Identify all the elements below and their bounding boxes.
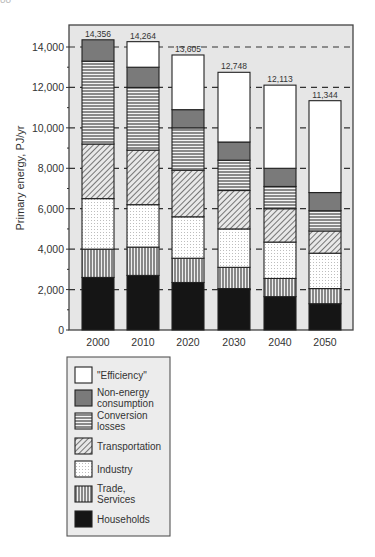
bar-2020: 13,6052020 — [172, 44, 204, 348]
legend-label: Non-energy — [97, 387, 149, 398]
bar-segment — [172, 258, 204, 282]
legend-label: losses — [97, 421, 125, 432]
bar-segment — [82, 199, 114, 250]
bar-segment — [82, 277, 114, 330]
bar-segment — [309, 101, 341, 193]
bar-segment — [127, 150, 159, 205]
legend: "Efficiency"Non-energyconsumptionConvers… — [67, 357, 170, 536]
caption-fragment — [0, 548, 375, 557]
legend-swatch — [75, 390, 92, 406]
y-tick-label: 6,000 — [38, 203, 64, 215]
bar-segment — [218, 229, 250, 267]
bar-segment — [82, 144, 114, 199]
bar-segment — [264, 168, 296, 186]
legend-label: Households — [97, 514, 150, 525]
y-tick-label: 8,000 — [38, 162, 64, 174]
x-tick-label: 2040 — [268, 336, 292, 348]
bar-segment — [172, 282, 204, 330]
bar-segment — [82, 61, 114, 144]
bar-total-label: 13,605 — [175, 44, 201, 54]
legend-label: Transportation — [97, 441, 161, 452]
y-tick-label: 2,000 — [38, 284, 64, 296]
bar-total-label: 12,113 — [267, 74, 293, 84]
legend-swatch — [75, 438, 92, 454]
bar-segment — [309, 211, 341, 231]
legend-swatch — [75, 413, 92, 429]
bar-total-label: 14,356 — [85, 29, 111, 39]
legend-label: Services — [97, 494, 135, 505]
bar-segment — [172, 170, 204, 216]
bar-segment — [127, 247, 159, 275]
bar-segment — [309, 304, 341, 330]
bar-2040: 12,1132040 — [264, 74, 296, 348]
bar-2000: 14,3562000 — [82, 29, 114, 348]
bar-total-label: 12,748 — [221, 61, 247, 71]
legend-label: Conversion — [97, 410, 148, 421]
bar-segment — [127, 42, 159, 68]
y-tick-label: 4,000 — [38, 243, 64, 255]
x-tick-label: 2010 — [131, 336, 155, 348]
bar-segment — [218, 160, 250, 190]
bar-segment — [172, 110, 204, 128]
bar-segment — [309, 193, 341, 211]
bar-segment — [127, 205, 159, 247]
x-tick-label: 2050 — [313, 336, 337, 348]
bar-2030: 12,7482030 — [218, 61, 250, 348]
bar-segment — [172, 128, 204, 170]
legend-label: Trade, — [97, 483, 126, 494]
bar-segment — [127, 275, 159, 330]
x-tick-label: 2020 — [176, 336, 200, 348]
bar-segment — [127, 67, 159, 87]
legend-swatch — [75, 511, 92, 527]
bar-segment — [218, 191, 250, 229]
bar-segment — [82, 249, 114, 277]
bar-segment — [264, 85, 296, 168]
legend-swatch — [75, 486, 92, 502]
bar-segment — [218, 289, 250, 330]
bar-segment — [309, 253, 341, 288]
legend-swatch — [75, 367, 92, 383]
bar-segment — [309, 231, 341, 253]
y-axis-label: Primary energy, PJ/yr — [14, 125, 26, 230]
bar-segment — [218, 267, 250, 288]
y-tick-label: 14,000 — [32, 41, 64, 53]
legend-label: consumption — [97, 398, 154, 409]
bar-segment — [264, 278, 296, 296]
bar-segment — [264, 186, 296, 208]
y-tick-label: 12,000 — [32, 81, 64, 93]
bar-segment — [82, 40, 114, 61]
bar-segment — [264, 242, 296, 278]
bar-2050: 11,3442050 — [309, 90, 341, 348]
legend-label: "Efficiency" — [97, 370, 147, 381]
y-tick-label: 10,000 — [32, 122, 64, 134]
legend-label: Industry — [97, 464, 133, 475]
bar-segment — [218, 142, 250, 160]
stacked-bar-chart: 02,0004,0006,0008,00010,00012,00014,000P… — [0, 0, 375, 557]
bar-segment — [264, 297, 296, 330]
bar-segment — [218, 72, 250, 142]
bar-segment — [172, 55, 204, 110]
bar-segment — [264, 209, 296, 242]
bar-segment — [127, 87, 159, 150]
plot-area: 02,0004,0006,0008,00010,00012,00014,000P… — [14, 25, 353, 348]
x-tick-label: 2030 — [222, 336, 246, 348]
y-tick-label: 0 — [58, 324, 64, 336]
bar-total-label: 14,264 — [130, 31, 156, 41]
bar-segment — [172, 217, 204, 258]
x-tick-label: 2000 — [86, 336, 110, 348]
legend-swatch — [75, 461, 92, 477]
bar-segment — [309, 289, 341, 304]
bar-2010: 14,2642010 — [127, 31, 159, 348]
bar-total-label: 11,344 — [312, 90, 338, 100]
